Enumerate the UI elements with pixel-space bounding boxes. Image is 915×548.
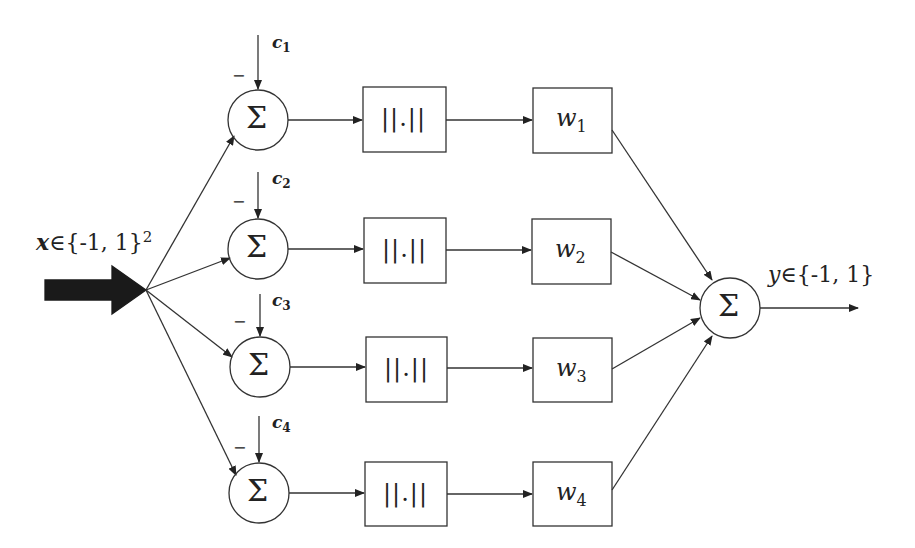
norm-block-4: ||.||	[383, 479, 428, 507]
minus-sign-3: −	[233, 312, 246, 331]
norm-block-3: ||.||	[384, 354, 429, 382]
sum-symbol-2: Σ	[246, 229, 267, 264]
sum-symbol-4: Σ	[247, 473, 268, 508]
minus-sign-4: −	[233, 438, 246, 457]
minus-sign-1: −	[232, 66, 245, 85]
minus-sign-2: −	[232, 192, 245, 211]
c2-label: c2	[272, 168, 291, 191]
sum-symbol-3: Σ	[248, 347, 269, 382]
c3-label: c3	[272, 290, 291, 313]
output-sum-symbol: Σ	[718, 288, 739, 323]
weight-block-2: w2	[555, 235, 586, 267]
norm-block-2: ||.||	[382, 235, 427, 263]
output-label: y∈{-1, 1}	[768, 262, 874, 287]
c4-label: c4	[272, 412, 291, 435]
input-label: x∈{-1, 1}2	[36, 228, 152, 255]
c1-label: c1	[272, 32, 291, 55]
weight-block-4: w4	[556, 478, 587, 510]
norm-block-1: ||.||	[381, 104, 426, 132]
weight-block-1: w1	[556, 104, 587, 136]
input-arrow-icon	[45, 266, 146, 314]
weight-block-3: w3	[556, 354, 587, 386]
sum-symbol-1: Σ	[246, 100, 267, 135]
